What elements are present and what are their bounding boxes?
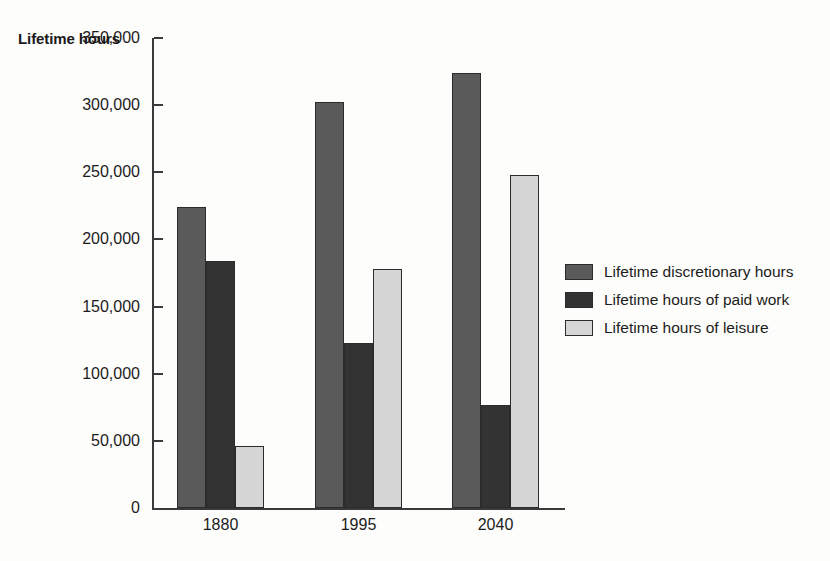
y-axis-tick-label: 250,000 (82, 163, 140, 181)
legend-swatch-icon (565, 292, 593, 308)
y-axis-tick (154, 373, 163, 375)
legend-item-label: Lifetime hours of leisure (604, 319, 769, 337)
y-axis-tick (154, 171, 163, 173)
bar (481, 405, 510, 508)
y-axis-tick (154, 440, 163, 442)
x-axis-category-label: 2040 (478, 516, 514, 534)
y-axis-tick (154, 104, 163, 106)
bar (206, 261, 235, 508)
y-axis-tick (154, 306, 163, 308)
legend-item-label: Lifetime hours of paid work (604, 291, 789, 309)
plot-area (152, 38, 565, 510)
y-axis-tick-label: 150,000 (82, 298, 140, 316)
y-axis-tick-label: 50,000 (91, 432, 140, 450)
y-axis-tick-label: 350,000 (82, 29, 140, 47)
x-axis-category-labels: 188019952040 (152, 516, 565, 542)
legend-swatch-icon (565, 320, 593, 336)
y-axis-tick-label: 0 (131, 499, 140, 517)
y-axis-tick (154, 238, 163, 240)
bar (344, 343, 373, 508)
x-axis-category-label: 1995 (341, 516, 377, 534)
legend-swatch-icon (565, 264, 593, 280)
bar (452, 73, 481, 508)
x-axis-category-label: 1880 (203, 516, 239, 534)
legend-item: Lifetime discretionary hours (565, 258, 827, 286)
bar (315, 102, 344, 508)
bars-layer (152, 38, 565, 508)
legend-item-label: Lifetime discretionary hours (604, 263, 794, 281)
y-axis-tick (154, 37, 163, 39)
legend-item: Lifetime hours of paid work (565, 286, 827, 314)
y-axis-tick-label: 300,000 (82, 96, 140, 114)
bar (510, 175, 539, 508)
bar (373, 269, 402, 508)
chart-legend: Lifetime discretionary hoursLifetime hou… (565, 258, 827, 342)
bar (177, 207, 206, 508)
y-axis-tick-label: 200,000 (82, 230, 140, 248)
legend-item: Lifetime hours of leisure (565, 314, 827, 342)
bar (235, 446, 264, 508)
bar-chart: Lifetime hours 050,000100,000150,000200,… (0, 0, 830, 561)
y-axis-tick-label: 100,000 (82, 365, 140, 383)
x-axis-line (152, 508, 565, 510)
y-axis-tick-labels: 050,000100,000150,000200,000250,000300,0… (0, 38, 140, 510)
